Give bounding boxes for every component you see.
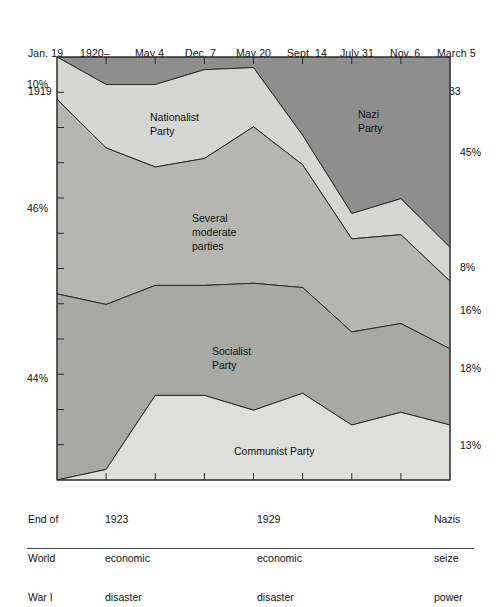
event-caption-2-line3: disaster xyxy=(257,591,302,604)
event-caption-0-line1: End of xyxy=(28,513,58,526)
event-caption-1-line3: disaster xyxy=(105,591,150,604)
event-caption-1-line1: 1923 xyxy=(105,513,150,526)
band-label-communist-party: Communist Party xyxy=(234,445,315,457)
event-caption-2-line1: 1929 xyxy=(257,513,302,526)
event-caption-0-line3: War I xyxy=(28,591,58,604)
event-caption-3-line3: power xyxy=(434,591,463,604)
event-captions: End of World War I 1923 economic disaste… xyxy=(0,487,501,537)
event-caption-0-line2: World xyxy=(28,552,58,565)
event-caption-3-line1: Nazis xyxy=(434,513,463,526)
event-caption-3-line2: seize xyxy=(434,552,463,565)
event-caption-0: End of World War I xyxy=(28,487,58,607)
event-caption-3: Nazis seize power xyxy=(434,487,463,607)
chart-bands xyxy=(57,57,450,480)
event-caption-2-line2: economic xyxy=(257,552,302,565)
event-caption-1-line2: economic xyxy=(105,552,150,565)
footer-divider xyxy=(27,548,474,549)
event-caption-1: 1923 economic disaster xyxy=(105,487,150,607)
event-caption-2: 1929 economic disaster xyxy=(257,487,302,607)
